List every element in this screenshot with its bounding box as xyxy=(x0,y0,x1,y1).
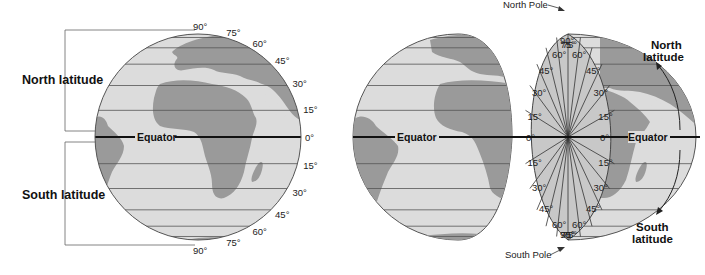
wedge-angle-label: 30° xyxy=(594,87,609,98)
latitude-label: 75° xyxy=(226,27,241,38)
right-south-label-line2: latitude xyxy=(632,233,673,245)
wedge-angle-label: 90° xyxy=(560,229,575,240)
latitude-label: 45° xyxy=(275,209,290,220)
south-latitude-label: South latitude xyxy=(22,188,105,202)
latitude-label: 60° xyxy=(253,226,268,237)
latitude-label: 75° xyxy=(226,237,241,248)
right-south-label-line1: South xyxy=(636,221,669,233)
wedge-angle-label: 30° xyxy=(532,182,547,193)
latitude-diagram: North latitude South latitude 90°75°60°4… xyxy=(0,0,705,275)
left-globe: North latitude South latitude 90°75°60°4… xyxy=(22,21,318,256)
right-figure: 90°75°75°60°60°45°45°30°30°15°15°0°0°15°… xyxy=(340,0,705,260)
wedge-angle-label: 30° xyxy=(532,87,547,98)
latitude-label: 45° xyxy=(275,55,290,66)
north-pole-label: North Pole xyxy=(503,0,548,10)
wedge-angle-label: 15° xyxy=(598,157,613,168)
latitude-label: 30° xyxy=(292,78,307,89)
right-slice-equator-label: Equator xyxy=(397,131,437,143)
right-north-label-line2: latitude xyxy=(643,51,684,63)
latitude-label: 90° xyxy=(193,245,208,256)
latitude-label: 15° xyxy=(303,104,318,115)
right-remainder-equator-label: Equator xyxy=(628,131,668,143)
wedge-angle-label: 15° xyxy=(598,111,613,122)
wedge-angle-label: 45° xyxy=(586,203,601,214)
wedge-angle-label: 45° xyxy=(586,65,601,76)
north-pole-arrowhead xyxy=(558,6,565,11)
north-latitude-label: North latitude xyxy=(22,73,103,87)
south-pole-label: South Pole xyxy=(505,249,551,260)
wedge-angle-label: 60° xyxy=(572,49,587,60)
right-north-label-line1: North xyxy=(651,39,682,51)
latitude-label: 90° xyxy=(193,21,208,32)
wedge-angle-label: 45° xyxy=(539,203,554,214)
wedge-angle-label: 30° xyxy=(594,182,609,193)
wedge-angle-label: 15° xyxy=(527,157,542,168)
latitude-label: 30° xyxy=(292,187,307,198)
latitude-label: 0° xyxy=(305,132,314,143)
latitude-label: 60° xyxy=(253,38,268,49)
wedge-angle-label: 60° xyxy=(552,49,567,60)
latitude-label: 15° xyxy=(303,160,318,171)
left-equator-label: Equator xyxy=(137,131,177,143)
wedge-angle-label: 45° xyxy=(539,65,554,76)
wedge-angle-label: 15° xyxy=(527,111,542,122)
